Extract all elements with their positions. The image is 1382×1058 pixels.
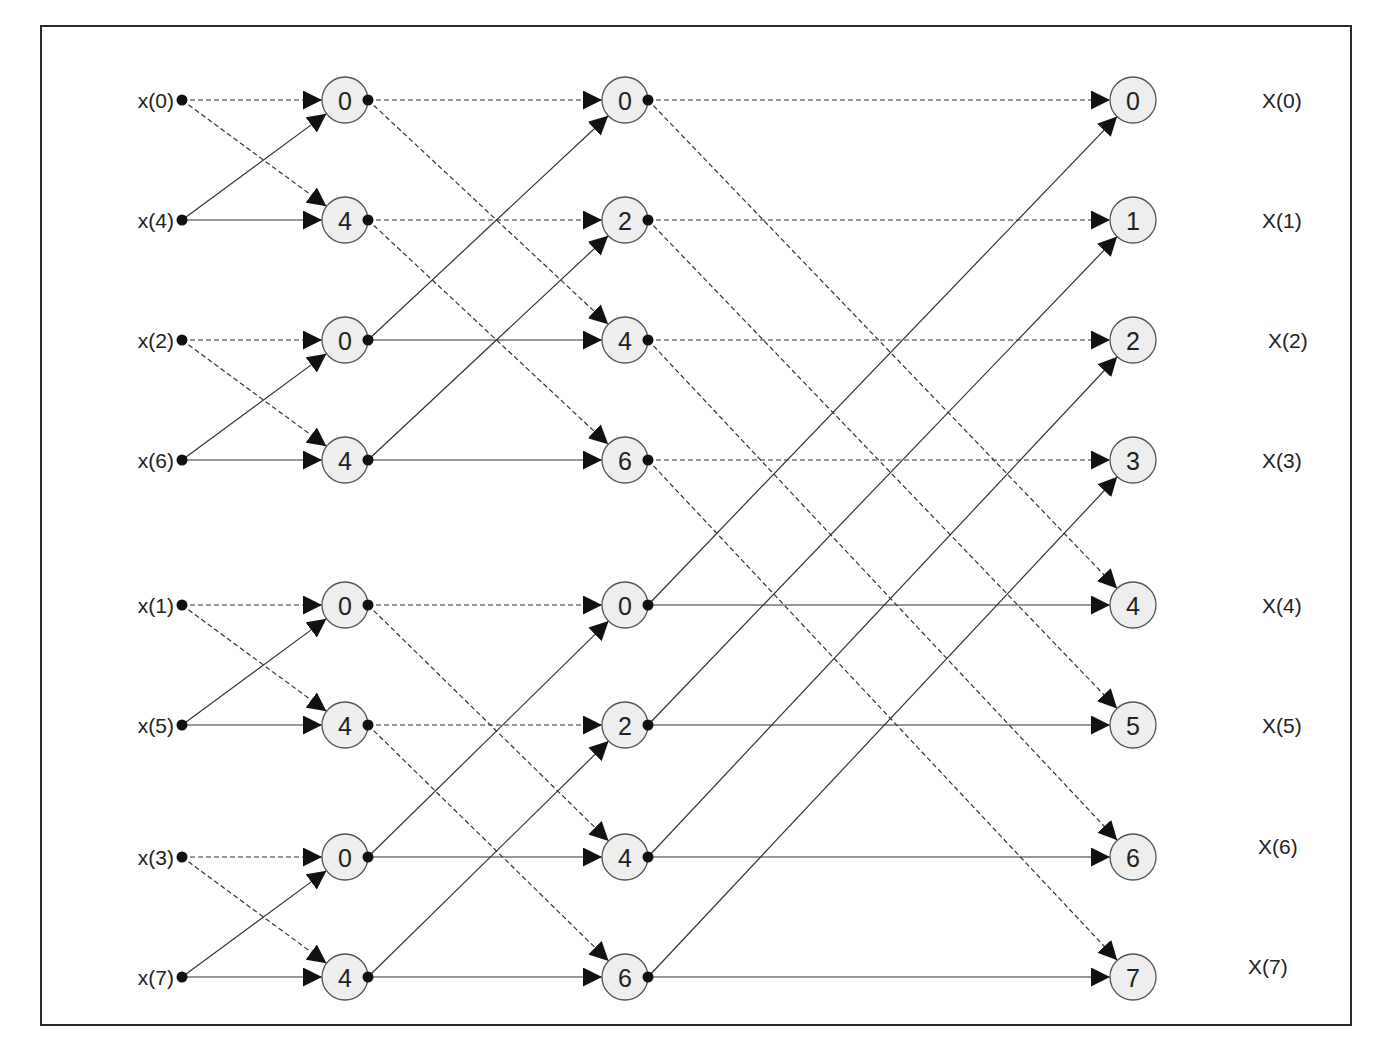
stage3-node: 1: [1110, 197, 1156, 243]
edge-solid: [368, 116, 608, 340]
edge-solid: [648, 357, 1117, 857]
edge-layer: [182, 100, 1117, 977]
stage3-node-label: 7: [1126, 964, 1140, 992]
fft-butterfly-diagram: 040404040246024601234567: [0, 0, 1382, 1058]
stage1-node-label: 0: [338, 844, 352, 872]
edge-solid: [368, 236, 608, 460]
output-dot: [363, 852, 374, 863]
input-dot: [177, 95, 188, 106]
stage2-node: 6: [602, 954, 654, 1000]
edge-solid: [368, 621, 609, 857]
input-dot: [177, 455, 188, 466]
stage2-node-label: 2: [618, 712, 632, 740]
output-dot: [643, 455, 654, 466]
stage1-node-label: 0: [338, 592, 352, 620]
stage1-node-label: 0: [338, 327, 352, 355]
stage3-node-label: 1: [1126, 207, 1140, 235]
stage2-node: 0: [602, 77, 654, 123]
output-dot: [363, 95, 374, 106]
output-dot: [363, 600, 374, 611]
edge-solid: [368, 741, 609, 977]
edge-solid: [648, 117, 1117, 605]
stage2-node: 2: [602, 197, 654, 243]
stage1-node-label: 4: [338, 964, 352, 992]
edge-solid: [182, 114, 326, 220]
stage2-node-label: 0: [618, 87, 632, 115]
input-dot: [177, 972, 188, 983]
edge-dashed: [648, 340, 1117, 840]
stage3-node: 4: [1110, 582, 1156, 628]
stage3-node: 0: [1110, 77, 1156, 123]
edge-dashed: [368, 220, 608, 444]
stage2-node: 0: [602, 582, 654, 628]
stage1-node-label: 4: [338, 447, 352, 475]
edge-solid: [648, 477, 1117, 977]
stage1-node-label: 0: [338, 87, 352, 115]
edge-dashed: [182, 100, 326, 206]
stage1-node: 4: [322, 197, 374, 243]
stage3-node: 2: [1110, 317, 1156, 363]
stage1-node-label: 4: [338, 207, 352, 235]
stage1-node: 4: [322, 437, 374, 483]
edge-dashed: [368, 605, 609, 841]
stage2-node-label: 6: [618, 447, 632, 475]
edge-dashed: [182, 857, 326, 963]
edge-dashed: [368, 725, 609, 961]
output-dot: [643, 335, 654, 346]
stage1-node: 4: [322, 702, 374, 748]
stage3-node: 7: [1110, 954, 1156, 1000]
output-dot: [363, 335, 374, 346]
output-dot: [643, 852, 654, 863]
output-dot: [643, 972, 654, 983]
edge-dashed: [648, 100, 1117, 588]
stage3-node-label: 0: [1126, 87, 1140, 115]
stage3-node: 6: [1110, 834, 1156, 880]
stage2-node-label: 6: [618, 964, 632, 992]
output-dot: [363, 720, 374, 731]
stage2-node-label: 2: [618, 207, 632, 235]
input-dot: [177, 600, 188, 611]
output-dot: [363, 455, 374, 466]
stage1-node-label: 4: [338, 712, 352, 740]
input-dot: [177, 335, 188, 346]
edge-solid: [182, 354, 326, 460]
stage2-node-label: 4: [618, 844, 632, 872]
stage3-node: 5: [1110, 702, 1156, 748]
stage1-node: 0: [322, 582, 374, 628]
stage2-node: 6: [602, 437, 654, 483]
stage1-node: 4: [322, 954, 374, 1000]
input-dot: [177, 852, 188, 863]
stage1-node: 0: [322, 834, 374, 880]
output-dot: [643, 600, 654, 611]
stage2-node: 2: [602, 702, 654, 748]
output-dot: [643, 215, 654, 226]
edge-dashed: [368, 100, 608, 324]
stage3-node-label: 6: [1126, 844, 1140, 872]
output-dot: [363, 215, 374, 226]
input-dot: [177, 215, 188, 226]
edge-dashed: [182, 605, 326, 711]
output-dot: [643, 720, 654, 731]
stage2-node-label: 0: [618, 592, 632, 620]
stage2-node-label: 4: [618, 327, 632, 355]
stage3-node-label: 2: [1126, 327, 1140, 355]
stage3-node-label: 3: [1126, 447, 1140, 475]
edge-dashed: [648, 220, 1117, 708]
stage2-node: 4: [602, 317, 654, 363]
edge-solid: [182, 871, 326, 977]
stage3-node-label: 4: [1126, 592, 1140, 620]
output-dot: [363, 972, 374, 983]
input-dot: [177, 720, 188, 731]
stage3-node: 3: [1110, 437, 1156, 483]
stage2-node: 4: [602, 834, 654, 880]
edge-solid: [648, 237, 1117, 725]
node-layer: 040404040246024601234567: [177, 77, 1157, 1000]
edge-solid: [182, 619, 326, 725]
stage3-node-label: 5: [1126, 712, 1140, 740]
output-dot: [643, 95, 654, 106]
edge-dashed: [182, 340, 326, 446]
edge-dashed: [648, 460, 1117, 960]
stage1-node: 0: [322, 317, 374, 363]
stage1-node: 0: [322, 77, 374, 123]
